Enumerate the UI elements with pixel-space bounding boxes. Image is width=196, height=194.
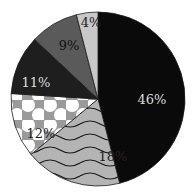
slice-label: 12% [27, 126, 56, 141]
slice-label: 4% [81, 15, 102, 30]
slice-label: 11% [22, 75, 51, 90]
slice-label: 18% [99, 149, 128, 164]
slice-label: 9% [59, 38, 80, 53]
slice-label: 46% [138, 92, 167, 107]
pie-chart: 46%18%12%11%9%4% [0, 0, 196, 194]
